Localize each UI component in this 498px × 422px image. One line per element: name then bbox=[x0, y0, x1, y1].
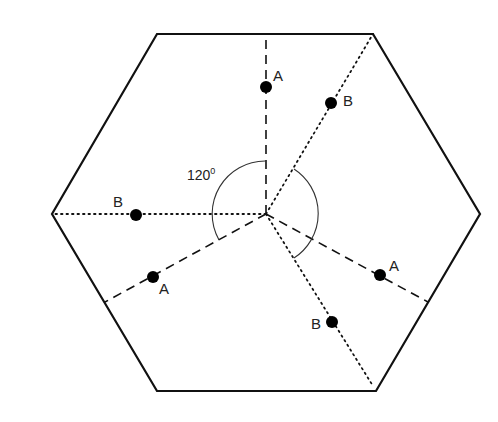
point-b-upper-right bbox=[325, 97, 337, 109]
point-a-right bbox=[374, 269, 386, 281]
point-b-left bbox=[130, 209, 142, 221]
label-b-left: B bbox=[113, 193, 123, 210]
angle-degree-sup: 0 bbox=[210, 166, 215, 176]
label-a-top: A bbox=[273, 67, 283, 84]
point-a-top bbox=[260, 81, 272, 93]
hexagon-diagram: A B B A A B 1200 bbox=[0, 0, 498, 422]
angle-arc-right bbox=[294, 169, 318, 258]
dashed-lines-a bbox=[105, 34, 428, 302]
point-a-lower-left bbox=[147, 271, 159, 283]
point-b-bottom bbox=[326, 316, 338, 328]
angle-label: 1200 bbox=[187, 166, 215, 183]
label-a-right: A bbox=[389, 257, 399, 274]
angle-value: 120 bbox=[187, 167, 211, 183]
label-a-lower-left: A bbox=[159, 280, 169, 297]
label-b-bottom: B bbox=[311, 315, 321, 332]
label-b-upper-right: B bbox=[343, 92, 353, 109]
